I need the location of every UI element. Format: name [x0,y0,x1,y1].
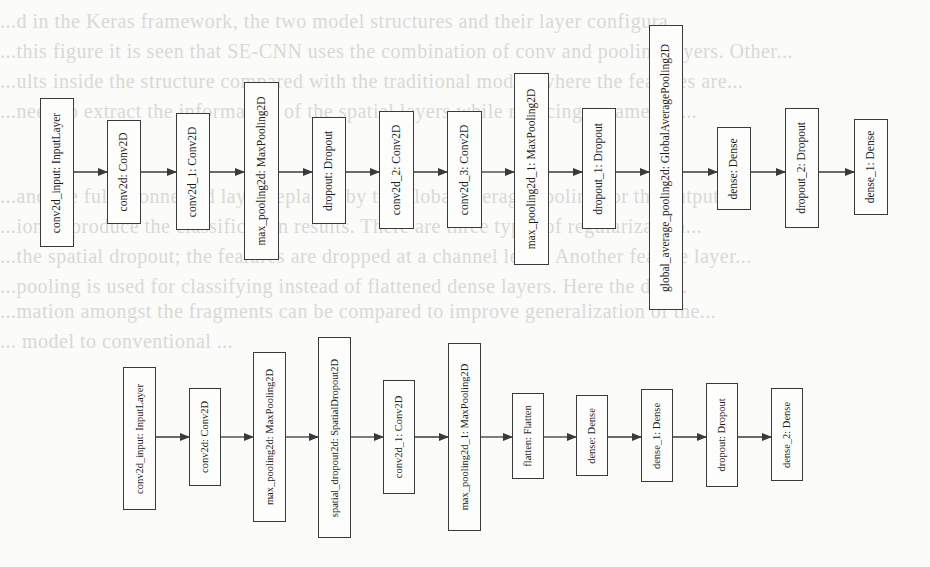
layer-node: dropout: Dropout [312,117,346,224]
layer-node: flatten: Flatten [512,393,544,479]
layer-node: dense: Dense [717,127,751,210]
layer-node: conv2d: Conv2D [107,120,141,224]
layer-node: dense: Dense [576,395,608,476]
layer-node: dense_1: Dense [641,389,673,482]
layer-node: conv2d: Conv2D [189,388,221,486]
layer-label: dropout: Dropout [323,130,335,210]
layer-label: conv2d: Conv2D [118,133,130,212]
layer-label: max_pooling2d_1: MaxPooling2D [526,89,538,250]
layer-node: conv2d_3: Conv2D [447,111,482,228]
layer-node: conv2d_input: InputLayer [123,367,156,510]
layer-label: conv2d_input: InputLayer [51,112,63,232]
layer-node: max_pooling2d: MaxPooling2D [253,352,286,522]
layer-node: global_average_pooling2d: GlobalAverageP… [649,25,683,310]
layer-node: conv2d_2: Conv2D [379,111,414,229]
layer-label: dense_1: Dense [652,402,663,468]
layer-label: dropout_2: Dropout [796,122,808,214]
layer-label: conv2d_3: Conv2D [459,124,471,214]
layer-label: dense: Dense [587,408,598,464]
layer-node: max_pooling2d: MaxPooling2D [244,82,279,260]
layer-label: conv2d_input: InputLayer [134,384,145,494]
layer-node: max_pooling2d_1: MaxPooling2D [514,73,549,265]
layer-node: dropout_1: Dropout [582,108,616,229]
layer-node: dropout: Dropout [706,383,738,487]
layer-label: dropout: Dropout [717,398,728,471]
layer-label: conv2d_1: Conv2D [187,126,199,216]
layer-label: conv2d_2: Conv2D [391,125,403,215]
layer-label: global_average_pooling2d: GlobalAverageP… [660,44,672,292]
layer-label: max_pooling2d: MaxPooling2D [256,96,268,245]
layer-label: max_pooling2d_1: MaxPooling2D [459,364,470,511]
layer-node: max_pooling2d_1: MaxPooling2D [448,343,481,531]
layer-label: dense_2: Dense [782,401,793,467]
layer-label: dropout_1: Dropout [593,123,605,215]
layer-node: conv2d_1: Conv2D [176,113,210,230]
layer-node: conv2d_1: Conv2D [383,380,415,494]
layer-label: spatial_dropout2d: SpatialDropout2D [329,358,340,516]
layer-node: dropout_2: Dropout [785,108,819,228]
layer-label: dense: Dense [728,138,740,199]
layer-node: conv2d_input: InputLayer [40,98,74,247]
layer-label: dense_1: Dense [865,131,877,204]
diagram-canvas: ...d in the Keras framework, the two mod… [0,0,930,567]
layer-label: max_pooling2d: MaxPooling2D [264,369,275,505]
layer-label: flatten: Flatten [523,405,534,467]
layer-node: spatial_dropout2d: SpatialDropout2D [318,337,351,538]
layer-node: dense_2: Dense [771,388,803,481]
layer-label: conv2d_1: Conv2D [394,396,405,479]
layer-label: conv2d: Conv2D [200,401,211,473]
layer-node: dense_1: Dense [854,119,888,215]
